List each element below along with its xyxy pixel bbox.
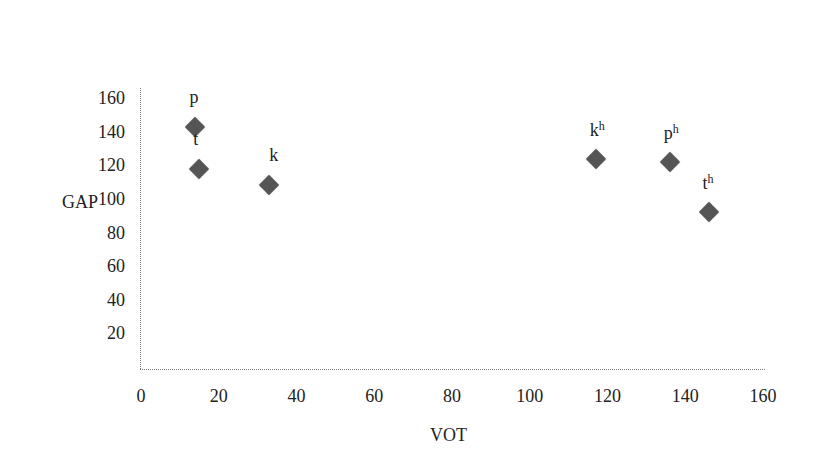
data-point-marker	[259, 176, 279, 196]
data-point-label: k	[269, 145, 278, 166]
y-tick-label: 120	[85, 156, 125, 174]
y-tick-label: 20	[85, 324, 125, 342]
x-axis	[140, 369, 765, 370]
x-tick-label: 20	[194, 387, 244, 405]
data-point-marker	[660, 152, 680, 172]
data-point-label: kh	[590, 119, 605, 141]
x-tick-label: 40	[272, 387, 322, 405]
x-tick-label: 60	[349, 387, 399, 405]
data-point-label: p	[189, 87, 198, 108]
data-point-marker	[189, 159, 209, 179]
x-tick-label: 100	[505, 387, 555, 405]
data-point-marker	[699, 202, 719, 222]
data-point-label: ph	[664, 122, 679, 144]
y-tick-label: 40	[85, 291, 125, 309]
y-tick-label: 60	[85, 257, 125, 275]
x-tick-label: 140	[660, 387, 710, 405]
x-tick-label: 120	[583, 387, 633, 405]
x-tick-label: 80	[427, 387, 477, 405]
x-tick-label: 160	[738, 387, 788, 405]
y-tick-label: 140	[85, 123, 125, 141]
x-tick-label: 0	[116, 387, 166, 405]
y-tick-label: 160	[85, 89, 125, 107]
y-tick-label: 80	[85, 224, 125, 242]
data-point-label: t	[193, 129, 198, 150]
y-axis	[140, 88, 141, 369]
data-point-label: th	[703, 172, 714, 194]
x-axis-label: VOT	[430, 425, 467, 446]
scatter-chart: GAP VOT 20406080100120140160 02040608010…	[0, 0, 826, 466]
data-point-marker	[586, 149, 606, 169]
y-tick-label: 100	[85, 190, 125, 208]
